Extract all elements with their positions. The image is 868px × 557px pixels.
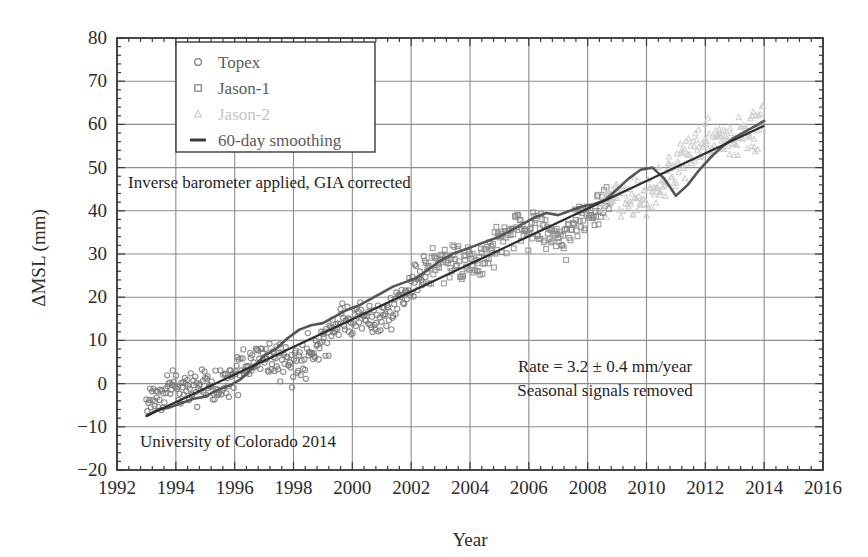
chart-canvas: 1992199419961998200020022004200620082010… [0, 0, 868, 557]
x-tick-label: 2012 [686, 477, 724, 498]
legend-item-label: Topex [218, 53, 261, 72]
x-tick-label: 2004 [451, 477, 490, 498]
x-axis-title: Year [452, 529, 488, 550]
x-tick-label: 2010 [628, 477, 666, 498]
x-tick-label: 1998 [275, 477, 313, 498]
x-tick-label: 2008 [569, 477, 607, 498]
chart-legend: TopexJason-1Jason-260-day smoothing [176, 42, 375, 152]
y-tick-label: 60 [88, 113, 107, 134]
annotation-correction-note: Inverse barometer applied, GIA corrected [128, 173, 411, 192]
annotation-rate: Rate = 3.2 ± 0.4 mm/year [518, 357, 693, 376]
y-tick-label: −10 [77, 416, 107, 437]
y-tick-label: −20 [77, 459, 107, 480]
x-tick-label: 2016 [804, 477, 842, 498]
y-tick-label: 80 [88, 27, 107, 48]
y-tick-label: 0 [98, 373, 108, 394]
y-tick-label: 70 [88, 70, 107, 91]
y-tick-label: 20 [88, 286, 107, 307]
sea-level-chart-figure: 1992199419961998200020022004200620082010… [0, 0, 868, 557]
x-tick-label: 2000 [333, 477, 371, 498]
x-tick-label: 1992 [98, 477, 136, 498]
annotation-seasonal: Seasonal signals removed [517, 381, 693, 400]
y-tick-label: 50 [88, 157, 107, 178]
legend-item-label: Jason-2 [218, 105, 270, 124]
x-tick-label: 2006 [510, 477, 548, 498]
legend-item-label: Jason-1 [218, 79, 270, 98]
x-tick-label: 2014 [745, 477, 784, 498]
y-tick-label: 30 [88, 243, 107, 264]
y-tick-label: 40 [88, 200, 107, 221]
chart-background [0, 0, 868, 557]
annotation-source: University of Colorado 2014 [140, 432, 336, 451]
x-tick-label: 1996 [216, 477, 254, 498]
y-tick-label: 10 [88, 329, 107, 350]
legend-item-label: 60-day smoothing [218, 131, 342, 150]
x-tick-label: 1994 [157, 477, 196, 498]
x-tick-label: 2002 [392, 477, 430, 498]
y-axis-title: ΔMSL (mm) [28, 209, 50, 307]
